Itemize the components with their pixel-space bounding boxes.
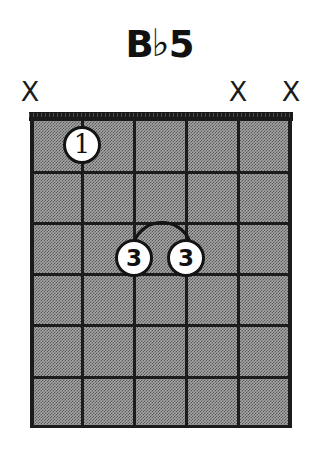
chord-name-title: B♭5 [0,22,319,67]
fretboard-grid: 1 3 3 [30,112,292,428]
finger-dot-string4-fret3[interactable]: 3 [167,239,205,277]
fret-line-4 [30,324,292,327]
chord-accidental-flat-icon: ♭ [152,21,169,65]
string-line-5 [237,120,240,428]
string-line-2 [81,120,84,428]
finger-dot-string2-fret1[interactable]: 1 [63,126,101,164]
string-state-row: X X X [0,78,319,110]
fret-line-1 [30,171,292,174]
fret-line-6 [30,425,292,428]
string-line-1 [30,120,34,428]
chord-root-label: B [126,23,153,66]
finger-dot-string3-fret3[interactable]: 3 [115,239,153,277]
string-line-6 [288,120,292,428]
string-5-mute-x-icon: X [225,78,251,106]
chord-diagram-card: B♭5 X X X 1 3 3 [0,0,319,460]
string-1-mute-x-icon: X [17,78,43,106]
chord-quality-label: 5 [169,23,194,66]
string-6-mute-x-icon: X [278,78,304,106]
nut-bar [29,112,293,121]
fret-line-3 [30,273,292,276]
fret-line-5 [30,376,292,379]
